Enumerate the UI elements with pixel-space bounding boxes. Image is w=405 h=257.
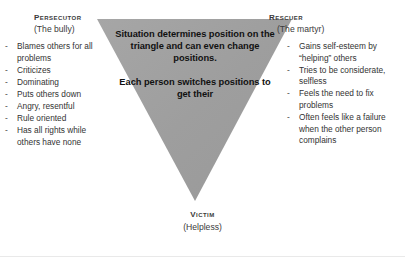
bullet-dash-icon: - bbox=[5, 101, 8, 113]
bullet-dash-icon: - bbox=[5, 89, 8, 101]
list-item-label: Angry, resentful bbox=[17, 101, 75, 111]
bullet-dash-icon: - bbox=[287, 65, 290, 77]
drama-triangle-figure: Situation determines position on the tri… bbox=[0, 0, 405, 257]
victim-subtitle: (Helpless) bbox=[0, 222, 405, 232]
list-item: - Angry, resentful bbox=[4, 101, 108, 113]
list-item-label: Tries to be considerate, selfless bbox=[299, 65, 385, 87]
list-item-label: Rule oriented bbox=[17, 113, 66, 123]
list-item: - Tries to be considerate, selfless bbox=[286, 65, 402, 88]
list-item-label: Gains self-esteem by “helping” others bbox=[299, 41, 377, 63]
list-item-label: Puts others down bbox=[17, 89, 81, 99]
victim-role: Victim (Helpless) bbox=[0, 203, 405, 232]
list-item-label: Criticizes bbox=[17, 65, 51, 75]
persecutor-role: Persecutor (The bully) - Blames others f… bbox=[34, 10, 130, 34]
list-item: - Gains self-esteem by “helping” others bbox=[286, 41, 402, 64]
bullet-dash-icon: - bbox=[5, 41, 8, 53]
list-item: - Has all rights while others have none bbox=[4, 125, 108, 148]
rescuer-role: Rescuer (The martyr) - Gains self-esteem… bbox=[269, 10, 399, 34]
persecutor-bullet-list: - Blames others for all problems - Criti… bbox=[4, 41, 108, 149]
bullet-dash-icon: - bbox=[287, 112, 290, 124]
rescuer-title: Rescuer bbox=[269, 10, 399, 22]
list-item-label: Has all rights while others have none bbox=[17, 125, 86, 147]
persecutor-title: Persecutor bbox=[34, 10, 130, 22]
bullet-dash-icon: - bbox=[5, 113, 8, 125]
list-item-label: Dominating bbox=[17, 77, 59, 87]
list-item: - Feels the need to fix problems bbox=[286, 88, 402, 111]
list-item: - Blames others for all problems bbox=[4, 41, 108, 64]
list-item: - Often feels like a failure when the ot… bbox=[286, 112, 402, 147]
rescuer-bullet-list: - Gains self-esteem by “helping” others … bbox=[286, 41, 402, 147]
persecutor-subtitle: (The bully) bbox=[34, 24, 130, 34]
center-message: Situation determines position on the tri… bbox=[112, 28, 278, 100]
list-item-label: Often feels like a failure when the othe… bbox=[299, 112, 386, 145]
bullet-dash-icon: - bbox=[5, 125, 8, 137]
bullet-dash-icon: - bbox=[287, 41, 290, 53]
center-paragraph-1: Situation determines position on the tri… bbox=[112, 28, 278, 65]
list-item-label: Blames others for all problems bbox=[17, 41, 93, 63]
list-item: - Dominating bbox=[4, 77, 108, 89]
victim-title: Victim bbox=[190, 207, 214, 219]
list-item: - Rule oriented bbox=[4, 113, 108, 125]
bullet-dash-icon: - bbox=[287, 88, 290, 100]
center-paragraph-2: Each person switches positions to get th… bbox=[112, 76, 278, 100]
list-item-label: Feels the need to fix problems bbox=[299, 88, 374, 110]
bullet-dash-icon: - bbox=[5, 65, 8, 77]
list-item: - Puts others down bbox=[4, 89, 108, 101]
list-item: - Criticizes bbox=[4, 65, 108, 77]
bullet-dash-icon: - bbox=[5, 77, 8, 89]
rescuer-subtitle: (The martyr) bbox=[277, 24, 399, 34]
